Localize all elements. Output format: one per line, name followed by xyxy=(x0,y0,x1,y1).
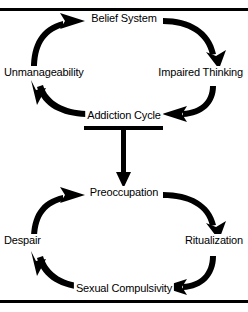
node-impaired-thinking: Impaired Thinking xyxy=(156,66,245,78)
arrow-impaired-thinking-to-addiction-cycle xyxy=(162,86,216,122)
addiction-cycle-diagram: Belief System Impaired Thinking Addictio… xyxy=(0,0,248,312)
arrows-layer xyxy=(0,0,248,312)
arrow-preoccupation-to-ritualization xyxy=(163,192,226,240)
node-sexual-compulsivity: Sexual Compulsivity xyxy=(74,282,174,294)
arrow-addiction-cycle-to-unmanageability xyxy=(31,80,86,117)
arrow-despair-to-preoccupation xyxy=(31,187,85,240)
arrow-belief-system-to-impaired-thinking xyxy=(163,18,226,69)
node-addiction-cycle: Addiction Cycle xyxy=(85,109,163,121)
connector-addiction-to-preoccupation xyxy=(84,126,163,188)
arrow-unmanageability-to-belief-system xyxy=(31,13,85,69)
node-preoccupation: Preoccupation xyxy=(88,186,160,198)
node-belief-system: Belief System xyxy=(89,12,158,24)
node-ritualization: Ritualization xyxy=(183,234,245,246)
node-despair: Despair xyxy=(2,234,43,246)
node-unmanageability: Unmanageability xyxy=(2,66,86,78)
